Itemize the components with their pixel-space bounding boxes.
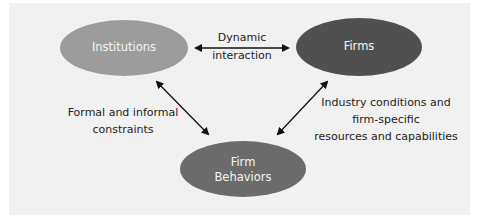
dynamic-interaction-label: Dynamic interaction [196, 29, 288, 65]
firms-label: Firms [296, 39, 422, 54]
constraints-line2: constraints [58, 121, 188, 138]
dynamic-interaction-line1: Dynamic [196, 29, 288, 47]
constraints-line1: Formal and informal [58, 104, 188, 121]
firm-behaviors-label: Firm Behaviors [180, 155, 306, 185]
firm-behaviors-label-line1: Firm [180, 155, 306, 170]
dynamic-interaction-line2: interaction [196, 47, 288, 65]
institutions-label: Institutions [60, 40, 188, 55]
firm-behaviors-label-line2: Behaviors [180, 170, 306, 185]
constraints-label: Formal and informal constraints [58, 104, 188, 138]
industry-conditions-line1: Industry conditions and [306, 94, 466, 111]
industry-conditions-label: Industry conditions and firm-specific re… [306, 94, 466, 145]
industry-conditions-line3: resources and capabilities [306, 128, 466, 145]
industry-conditions-line2: firm-specific [306, 111, 466, 128]
